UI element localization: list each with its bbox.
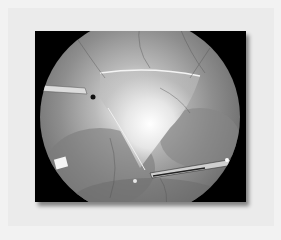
endoscopic-view	[40, 31, 240, 202]
photo-frame	[35, 31, 246, 202]
tissue-illustration	[40, 31, 240, 202]
